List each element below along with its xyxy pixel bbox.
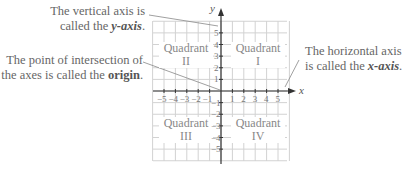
x-axis-annotation: The horizontal axis is called the x-axis… (305, 44, 402, 74)
x-tick-label: −5 (157, 94, 167, 104)
x-axis-arrow-icon (288, 88, 296, 94)
x-axis-annotation-line1: The horizontal axis (305, 44, 402, 59)
y-tick-label: 5 (214, 28, 219, 38)
y-tick-label: −2 (211, 109, 221, 119)
x-tick-label: 3 (253, 94, 258, 104)
y-axis-annotation-line2: called the y-axis. (20, 19, 145, 34)
y-tick-label: 1 (214, 74, 219, 84)
x-axis-annotation-line2: is called the x-axis. (305, 59, 402, 74)
y-tick-label: −3 (211, 121, 221, 131)
y-tick-label: −5 (211, 144, 221, 154)
x-tick-label: −2 (191, 94, 201, 104)
x-tick-label: −3 (180, 94, 190, 104)
y-axis-annotation: The vertical axis is called the y-axis. (20, 4, 145, 34)
y-axis-label: y (210, 2, 215, 14)
y-axis-annotation-line1: The vertical axis is (20, 4, 145, 19)
origin-annotation-line1: The point of intersection of (0, 53, 143, 68)
origin-annotation-line2: the axes is called the origin. (0, 68, 143, 83)
x-axis-label: x (299, 84, 304, 96)
y-tick-label: −4 (211, 133, 221, 143)
x-tick-label: 1 (230, 94, 235, 104)
y-axis-arrow-icon (218, 8, 224, 16)
origin-annotation: The point of intersection of the axes is… (0, 53, 143, 83)
x-tick-label: 5 (276, 94, 281, 104)
y-tick-label: −1 (211, 98, 221, 108)
quadrant-iv-label: QuadrantIV (231, 117, 285, 143)
quadrant-ii-label: QuadrantII (159, 42, 213, 68)
x-axis-leader-line (285, 60, 299, 87)
x-tick-label: 2 (241, 94, 246, 104)
y-axis-leader-line (149, 15, 218, 26)
y-tick-label: 3 (214, 51, 219, 61)
quadrant-i-label: QuadrantI (231, 42, 285, 68)
x-tick-label: 4 (264, 94, 269, 104)
y-tick-label: 2 (214, 63, 219, 73)
y-tick-label: 4 (214, 40, 219, 50)
quadrant-iii-label: QuadrantIII (159, 117, 213, 143)
x-tick-label: −4 (168, 94, 178, 104)
